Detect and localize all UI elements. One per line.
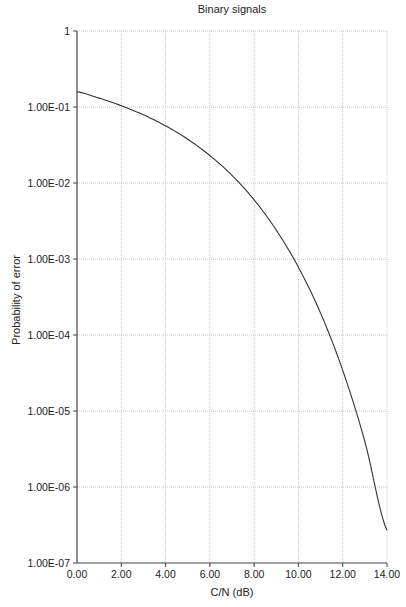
x-tick-label: 2.00	[111, 568, 131, 580]
y-tick-label: 1.00E-06	[27, 481, 70, 493]
x-tick-label: 0.00	[67, 568, 87, 580]
y-tick-label: 1.00E-05	[27, 405, 70, 417]
x-tick-label: 12.00	[330, 568, 356, 580]
y-tick-label: 1.00E-01	[27, 101, 70, 113]
y-axis-label: Probability of error	[10, 255, 22, 345]
x-tick-label: 4.00	[155, 568, 175, 580]
chart-title: Binary signals	[77, 3, 387, 15]
x-tick-label: 14.00	[374, 568, 400, 580]
x-axis-label: C/N (dB)	[77, 586, 387, 598]
x-tick-label: 8.00	[244, 568, 264, 580]
y-tick-label: 1.00E-03	[27, 253, 70, 265]
x-tick-label: 10.00	[285, 568, 311, 580]
chart-plot-area	[0, 0, 406, 607]
data-series-line	[77, 92, 387, 531]
y-tick-label: 1	[64, 25, 70, 37]
y-tick-label: 1.00E-07	[27, 557, 70, 569]
y-tick-label: 1.00E-04	[27, 329, 70, 341]
y-tick-label: 1.00E-02	[27, 177, 70, 189]
x-tick-label: 6.00	[200, 568, 220, 580]
